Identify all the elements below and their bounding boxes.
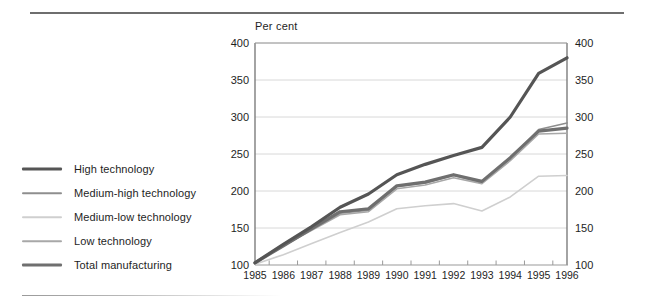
x-tick-label: 1992 bbox=[442, 269, 466, 281]
legend-line-icon bbox=[22, 234, 62, 248]
chart-legend: High technology Medium-high technology M… bbox=[22, 157, 212, 277]
legend-item-label: Medium-high technology bbox=[74, 186, 196, 200]
y-tick-label-right: 400 bbox=[575, 37, 593, 49]
legend-item-low-technology: Low technology bbox=[22, 229, 212, 253]
series-line bbox=[255, 58, 567, 263]
y-tick-label-left: 200 bbox=[231, 185, 249, 197]
x-tick-label: 1987 bbox=[300, 269, 324, 281]
plot-area: 1001001501502002002502503003003503504004… bbox=[222, 20, 634, 282]
plot-svg: 1001001501502002002502503003003503504004… bbox=[222, 20, 634, 282]
x-tick-label: 1994 bbox=[499, 269, 523, 281]
y-tick-label-left: 250 bbox=[231, 148, 249, 160]
y-tick-label-left: 300 bbox=[231, 111, 249, 123]
y-tick-label-right: 300 bbox=[575, 111, 593, 123]
series-line bbox=[255, 133, 567, 263]
legend-item-total-manufacturing: Total manufacturing bbox=[22, 253, 212, 277]
legend-line-icon bbox=[22, 186, 62, 200]
x-tick-label: 1993 bbox=[470, 269, 494, 281]
y-tick-label-right: 200 bbox=[575, 185, 593, 197]
x-tick-label: 1990 bbox=[385, 269, 409, 281]
y-tick-label-left: 350 bbox=[231, 74, 249, 86]
x-tick-label: 1991 bbox=[414, 269, 438, 281]
x-tick-label: 1988 bbox=[328, 269, 352, 281]
y-tick-label-left: 400 bbox=[231, 37, 249, 49]
series-line bbox=[255, 175, 567, 264]
legend-item-medium-low-technology: Medium-low technology bbox=[22, 205, 212, 229]
legend-line-icon bbox=[22, 258, 62, 272]
legend-item-label: Low technology bbox=[74, 234, 152, 248]
y-tick-label-right: 150 bbox=[575, 222, 593, 234]
legend-item-label: High technology bbox=[74, 162, 154, 176]
legend-line-icon bbox=[22, 210, 62, 224]
figure-root: High technology Medium-high technology M… bbox=[0, 0, 651, 306]
legend-item-medium-high-technology: Medium-high technology bbox=[22, 181, 212, 205]
x-tick-label: 1986 bbox=[272, 269, 296, 281]
y-tick-label-left: 150 bbox=[231, 222, 249, 234]
series-line bbox=[255, 128, 567, 263]
y-tick-label-right: 250 bbox=[575, 148, 593, 160]
legend-line-icon bbox=[22, 162, 62, 176]
series-line bbox=[255, 123, 567, 263]
bottom-divider bbox=[22, 295, 282, 296]
top-divider bbox=[30, 12, 624, 14]
legend-item-high-technology: High technology bbox=[22, 157, 212, 181]
x-tick-label: 1989 bbox=[357, 269, 381, 281]
legend-item-label: Medium-low technology bbox=[74, 210, 192, 224]
line-chart: Per cent 1001001501502002002502503003003… bbox=[222, 20, 634, 282]
x-tick-label: 1995 bbox=[527, 269, 551, 281]
y-tick-label-right: 350 bbox=[575, 74, 593, 86]
x-tick-label: 1996 bbox=[555, 269, 579, 281]
x-tick-label: 1985 bbox=[243, 269, 267, 281]
legend-item-label: Total manufacturing bbox=[74, 258, 172, 272]
